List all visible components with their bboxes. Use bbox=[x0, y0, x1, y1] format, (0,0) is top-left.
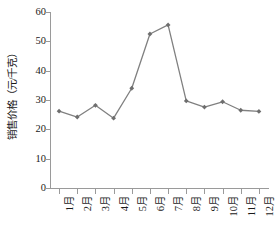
data-point-marker bbox=[202, 105, 207, 110]
data-series-layer bbox=[0, 0, 277, 227]
line-chart: 销售价格（元/千克） 0102030405060 1月2月3月4月5月6月7月8… bbox=[0, 0, 277, 227]
data-point-marker bbox=[257, 109, 262, 114]
data-point-marker bbox=[220, 99, 225, 104]
series-line bbox=[59, 25, 259, 118]
data-point-marker bbox=[184, 98, 189, 103]
data-point-marker bbox=[57, 109, 62, 114]
data-point-marker bbox=[238, 108, 243, 113]
data-point-marker bbox=[166, 23, 171, 28]
data-point-marker bbox=[148, 32, 153, 37]
